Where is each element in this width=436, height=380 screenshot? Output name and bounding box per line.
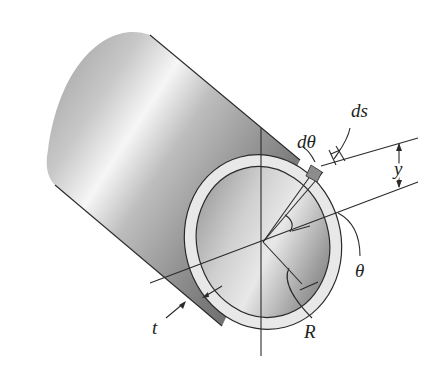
y-arrow-bottom — [396, 180, 402, 188]
label-theta: θ — [355, 260, 364, 281]
ds-leader — [334, 128, 350, 159]
label-ds: ds — [351, 100, 368, 121]
label-y-text: y — [392, 158, 403, 179]
label-dtheta: dθ — [297, 131, 316, 152]
t-arrowhead-outer — [179, 301, 186, 309]
label-t: t — [152, 317, 158, 338]
thin-walled-tube-diagram: dθ ds y y θ t R — [0, 0, 436, 380]
label-R: R — [303, 321, 316, 342]
